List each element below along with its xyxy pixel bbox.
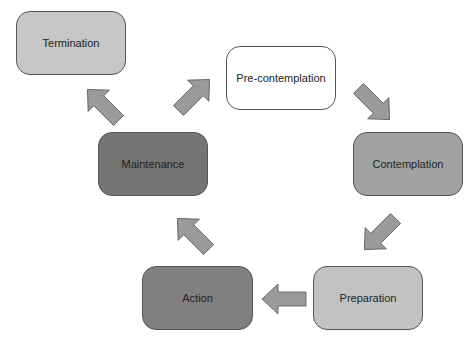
node-label: Termination bbox=[43, 37, 100, 49]
node-maintenance: Maintenance bbox=[98, 132, 208, 196]
arrow-preparation-to-action bbox=[262, 284, 306, 314]
node-label: Contemplation bbox=[373, 158, 444, 170]
arrow-precontemplation-to-contemplation bbox=[348, 78, 400, 130]
node-label: Preparation bbox=[340, 292, 397, 304]
node-precontemplation: Pre-contemplation bbox=[226, 46, 336, 110]
arrow-maintenance-to-termination bbox=[77, 79, 129, 131]
node-contemplation: Contemplation bbox=[353, 132, 463, 196]
arrow-action-to-maintenance bbox=[167, 208, 219, 260]
arrow-contemplation-to-preparation bbox=[354, 208, 406, 260]
node-action: Action bbox=[142, 266, 253, 330]
arrow-maintenance-to-precontemplation bbox=[168, 69, 220, 121]
node-label: Action bbox=[182, 292, 213, 304]
node-label: Pre-contemplation bbox=[236, 72, 325, 84]
node-label: Maintenance bbox=[122, 158, 185, 170]
node-preparation: Preparation bbox=[313, 266, 423, 330]
node-termination: Termination bbox=[16, 11, 126, 75]
